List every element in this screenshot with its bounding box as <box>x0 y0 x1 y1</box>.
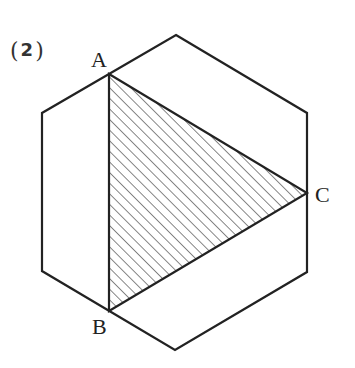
problem-number: (2) <box>10 38 44 63</box>
hatched-triangle-abc <box>109 74 307 311</box>
vertex-label-a: A <box>91 47 107 72</box>
hexagon-triangle-figure: (2) A B C <box>0 0 355 368</box>
vertex-label-b: B <box>92 314 107 339</box>
vertex-label-c: C <box>315 182 330 207</box>
